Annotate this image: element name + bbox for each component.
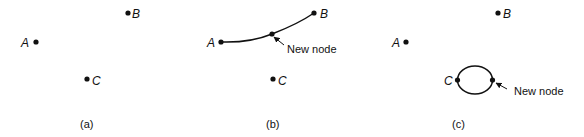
node-b-label: B [132, 7, 140, 21]
diagram: A B C (a) A B New node C (b) A B C New n… [0, 0, 584, 137]
new-node-annotation: New node [287, 43, 337, 55]
node-a-label: A [206, 36, 215, 50]
panel-c: A B C New node (c) [391, 7, 564, 130]
panel-b: A B New node C (b) [206, 7, 337, 130]
new-node-dot [269, 31, 274, 36]
new-node-dot [490, 77, 495, 82]
node-a-dot [218, 39, 223, 44]
node-c-dot [270, 76, 275, 81]
node-b-label: B [320, 7, 328, 21]
node-b-dot [495, 10, 500, 15]
caption-a: (a) [80, 118, 93, 130]
node-c-dot [455, 77, 460, 82]
new-node-annotation: New node [514, 85, 564, 97]
node-c-dot [84, 76, 89, 81]
node-b-label: B [503, 7, 511, 21]
node-a-label: A [391, 36, 400, 50]
node-c-label: C [444, 74, 453, 88]
node-a-dot [33, 39, 38, 44]
node-a-label: A [20, 36, 29, 50]
caption-b: (b) [266, 118, 279, 130]
new-node-arrow [496, 83, 507, 89]
caption-c: (c) [452, 118, 465, 130]
node-c-label: C [92, 74, 101, 88]
loop-edge [458, 66, 493, 94]
node-c-label: C [278, 74, 287, 88]
new-node-arrow [274, 37, 284, 45]
node-b-dot [125, 10, 130, 15]
panel-a: A B C (a) [20, 7, 140, 130]
node-b-dot [311, 10, 316, 15]
node-a-dot [403, 39, 408, 44]
edge-a-b [221, 13, 314, 42]
